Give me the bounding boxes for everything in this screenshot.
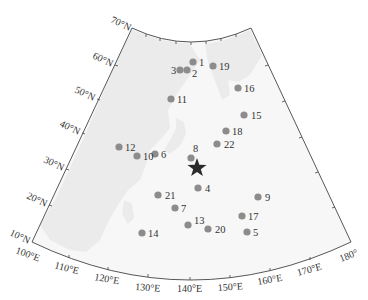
station-label: 18 xyxy=(232,126,243,137)
map-figure: 70°N 60°N 50°N 40°N 30°N 20°N 10°N 100°E… xyxy=(0,0,368,300)
lat-label-30: 30°N xyxy=(42,154,66,173)
lon-label-180: 180° xyxy=(338,247,360,264)
station-dot-icon xyxy=(209,62,216,69)
station-label: 22 xyxy=(224,139,235,150)
station-dot-icon xyxy=(243,228,250,235)
station-label: 10 xyxy=(143,151,154,162)
lon-label-120: 120°E xyxy=(94,271,121,286)
lat-label-50: 50°N xyxy=(73,84,97,103)
lon-label-110: 110°E xyxy=(53,259,80,276)
station-label: 2 xyxy=(192,68,197,79)
station-dot-icon xyxy=(187,154,194,161)
station-label: 7 xyxy=(181,203,186,214)
station-dot-icon xyxy=(167,95,174,102)
lat-label-70: 70°N xyxy=(109,14,133,33)
station-label: 19 xyxy=(219,61,230,72)
station-dot-icon xyxy=(189,58,196,65)
station-dot-icon xyxy=(194,184,201,191)
station-dot-icon xyxy=(222,127,229,134)
station-dot-icon xyxy=(115,143,122,150)
lon-label-170: 170°E xyxy=(296,261,323,278)
lat-label-40: 40°N xyxy=(58,118,82,137)
station-dot-icon xyxy=(238,212,245,219)
station-dot-icon xyxy=(133,152,140,159)
station-label: 8 xyxy=(193,143,198,154)
station-dot-icon xyxy=(183,66,190,73)
lat-label-60: 60°N xyxy=(91,50,115,69)
station-label: 17 xyxy=(248,211,259,222)
lat-label-10: 10°N xyxy=(8,227,32,246)
station-label: 9 xyxy=(265,192,270,203)
station-label: 21 xyxy=(165,190,176,201)
lon-label-160: 160°E xyxy=(256,272,283,287)
lat-label-20: 20°N xyxy=(25,190,49,209)
lon-label-150: 150°E xyxy=(217,280,243,293)
lon-label-130: 130°E xyxy=(135,281,161,294)
station-dot-icon xyxy=(204,225,211,232)
station-label: 20 xyxy=(215,224,226,235)
station-label: 4 xyxy=(205,183,211,194)
station-dot-icon xyxy=(176,66,183,73)
lon-label-100: 100°E xyxy=(14,245,41,264)
station-dot-icon xyxy=(171,204,178,211)
station-dot-icon xyxy=(254,193,261,200)
station-dot-icon xyxy=(234,84,241,91)
station-label: 1 xyxy=(199,57,204,68)
station-dot-icon xyxy=(184,221,191,228)
station-label: 12 xyxy=(125,142,136,153)
station-label: 5 xyxy=(253,227,258,238)
station-label: 6 xyxy=(161,149,166,160)
lon-label-140: 140°E xyxy=(177,283,202,294)
station-dot-icon xyxy=(213,140,220,147)
station-label: 3 xyxy=(171,65,176,76)
station-label: 15 xyxy=(251,110,262,121)
station-label: 14 xyxy=(148,228,159,239)
station-label: 11 xyxy=(177,94,187,105)
station-label: 16 xyxy=(244,83,255,94)
station-dot-icon xyxy=(240,111,247,118)
station-dot-icon xyxy=(154,191,161,198)
station-dot-icon xyxy=(138,229,145,236)
station-label: 13 xyxy=(194,215,205,226)
